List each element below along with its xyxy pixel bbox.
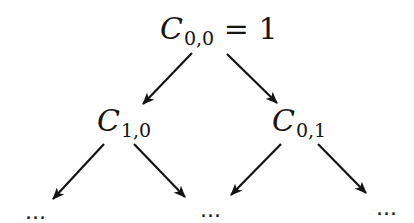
edge-root-to-c01-arrow-icon — [227, 54, 277, 103]
edge-c10-to-middle-dots-arrow-icon — [134, 144, 185, 197]
node-c01-var: C — [272, 103, 295, 138]
ellipsis-right: ... — [376, 197, 397, 219]
node-c01: C0,1 — [272, 106, 326, 140]
root-node: C0,0 = 1 — [160, 14, 277, 48]
edge-c01-to-middle-dots-arrow-icon — [231, 144, 281, 195]
node-c10-var: C — [97, 103, 120, 138]
edge-c01-to-right-dots-arrow-icon — [318, 144, 366, 193]
root-equals: = 1 — [214, 11, 277, 46]
root-var: C — [160, 11, 183, 46]
ellipsis-left: ... — [25, 201, 46, 223]
node-c10: C1,0 — [97, 106, 151, 140]
edge-root-to-c10-arrow-icon — [143, 53, 192, 104]
ellipsis-middle: ... — [200, 199, 221, 221]
node-c10-sub: 1,0 — [121, 119, 151, 141]
edge-c10-to-left-dots-arrow-icon — [53, 144, 104, 199]
root-sub: 0,0 — [184, 27, 214, 49]
diagram-canvas: C0,0 = 1 C1,0 C0,1 ... ... ... — [0, 0, 414, 223]
node-c01-sub: 0,1 — [296, 119, 326, 141]
